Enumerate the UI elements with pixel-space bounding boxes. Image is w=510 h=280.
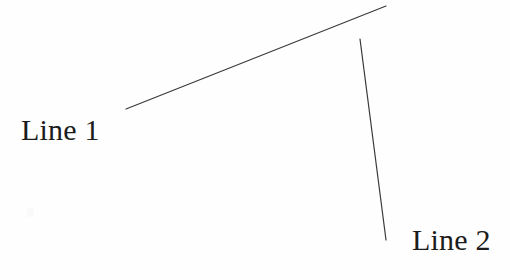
line-1-stroke: [126, 6, 386, 109]
scan-artifact-speck: [27, 208, 34, 217]
line-2-label: Line 2: [412, 225, 491, 255]
figure-canvas: Line 1 Line 2: [0, 0, 510, 280]
line-2-stroke: [360, 39, 386, 240]
line-1-label: Line 1: [21, 115, 100, 145]
